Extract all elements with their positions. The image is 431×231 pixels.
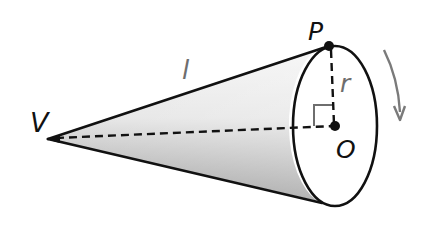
label-rim-point: P [308, 17, 324, 46]
point-p [324, 41, 334, 51]
cone-diagram: V P O l r [0, 0, 431, 231]
label-center: O [336, 135, 356, 164]
label-vertex: V [30, 107, 51, 138]
point-o [330, 121, 340, 131]
label-slant-height: l [182, 55, 190, 85]
rotation-arrow-icon [384, 50, 405, 120]
label-radius: r [340, 69, 352, 98]
